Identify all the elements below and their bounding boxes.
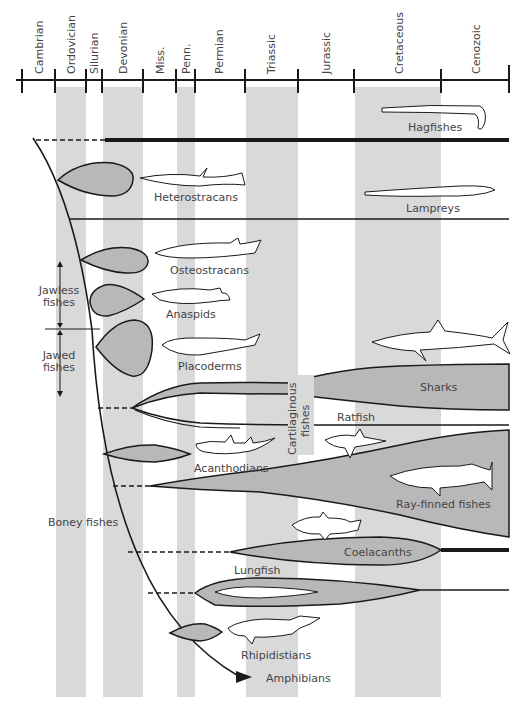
taxon-label-coelacanths: Coelacanths: [344, 546, 412, 559]
period-label-ordovician: Ordovician: [65, 15, 78, 74]
taxon-label-heterostracans: Heterostracans: [154, 191, 238, 204]
jawless-fishes-label-2: fishes: [43, 296, 75, 309]
anaspid-illustration-icon: [152, 288, 230, 304]
period-label-penn: Penn.: [180, 44, 193, 74]
boney-fishes-label: Boney fishes: [48, 516, 118, 529]
coelacanth-illustration-icon: [292, 512, 361, 540]
taxon-label-osteostracans: Osteostracans: [170, 264, 249, 277]
period-label-devonian: Devonian: [117, 22, 130, 74]
taxon-label-acanthodians: Acanthodians: [194, 462, 269, 475]
osteostracans-lineage: [81, 248, 148, 274]
period-label-miss: Miss.: [154, 46, 167, 74]
cartilaginous-fishes-label-2: fishes: [299, 405, 312, 437]
period-label-jurassic: Jurassic: [320, 32, 333, 75]
placoderm-illustration-icon: [162, 334, 260, 355]
period-labels: Cambrian Ordovician Silurian Devonian Mi…: [33, 12, 483, 75]
period-label-permian: Permian: [213, 29, 226, 74]
period-label-cambrian: Cambrian: [33, 21, 46, 74]
period-label-silurian: Silurian: [88, 33, 101, 74]
period-label-triassic: Triassic: [265, 34, 278, 75]
taxon-label-lampreys: Lampreys: [406, 202, 460, 215]
osteostracan-illustration-icon: [155, 238, 261, 258]
period-label-cenozoic: Cenozoic: [470, 24, 483, 74]
taxon-label-anaspids: Anaspids: [166, 308, 216, 321]
taxon-label-placoderms: Placoderms: [178, 360, 242, 373]
taxon-label-rhipidistians: Rhipidistians: [241, 649, 312, 662]
taxon-label-ray-finned: Ray-finned fishes: [396, 498, 491, 511]
fish-evolution-diagram: Cambrian Ordovician Silurian Devonian Mi…: [0, 0, 526, 713]
taxon-label-amphibians: Amphibians: [266, 672, 331, 685]
period-label-cretaceous: Cretaceous: [393, 12, 406, 74]
jawed-fishes-label-2: fishes: [43, 361, 75, 374]
taxon-label-hagfishes: Hagfishes: [408, 121, 462, 134]
cartilaginous-fishes-label: Cartilaginous: [286, 382, 299, 455]
taxon-label-lungfish: Lungfish: [234, 564, 281, 577]
taxon-label-sharks: Sharks: [420, 381, 458, 394]
taxon-label-ratfish: Ratfish: [337, 411, 375, 424]
